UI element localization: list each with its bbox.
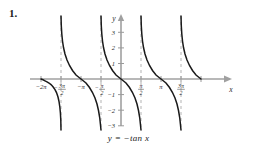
frac-denominator: 2 (180, 90, 183, 96)
frac-numerator: 3π (177, 83, 185, 89)
curve-branch-5 (181, 16, 201, 79)
y-tick-label-neg-3: −3 (107, 122, 115, 129)
y-axis-label: y (111, 14, 116, 23)
x-axis-arrowhead (224, 76, 232, 83)
frac-denominator: 2 (101, 90, 104, 96)
y-axis (118, 14, 124, 126)
y-tick-label-neg-2: −2 (107, 107, 115, 114)
x-tick-label-neg-2pi: −2π (35, 83, 47, 90)
frac-sign: − (95, 84, 99, 90)
x-tick-label-neg-3pi-2: − 3π 2 (54, 83, 66, 97)
frac-numerator: π (101, 83, 105, 89)
y-tick-label-neg-1: −1 (107, 91, 115, 98)
figure-tangent-graph: 1. (0, 0, 257, 155)
figure-caption: y = −tan x (0, 133, 257, 143)
plot-area: 3 2 1 −1 −2 −3 −2π −π π − 3π (0, 0, 257, 132)
plot-svg: 3 2 1 −1 −2 −3 −2π −π π − 3π (0, 0, 257, 132)
y-axis-arrowhead (118, 14, 124, 21)
x-tick-label-pi-2: π 2 (138, 83, 144, 97)
x-tick-label-neg-pi-2: − π 2 (95, 83, 105, 97)
frac-numerator: π (140, 83, 144, 89)
curve-branch-2 (61, 16, 101, 130)
frac-sign: − (54, 84, 58, 90)
frac-numerator: 3π (58, 83, 66, 89)
x-axis-label: x (228, 85, 233, 94)
curve-branch-4 (141, 16, 181, 130)
x-tick-label-neg-pi: −π (77, 83, 85, 90)
frac-denominator: 2 (140, 90, 143, 96)
frac-denominator: 2 (61, 90, 64, 96)
y-tick-label-2: 2 (112, 44, 116, 51)
x-tick-label-pi: π (159, 83, 163, 90)
y-tick-label-1: 1 (112, 60, 115, 67)
x-tick-label-3pi-2: 3π 2 (177, 83, 185, 97)
y-tick-label-3: 3 (111, 29, 116, 36)
